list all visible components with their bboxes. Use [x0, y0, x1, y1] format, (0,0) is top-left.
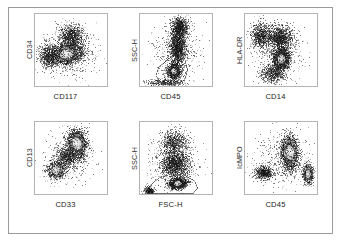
scatter-canvas — [245, 14, 317, 86]
scatter-plot-area — [139, 121, 213, 195]
plot-row: HLA-DR — [233, 13, 318, 87]
y-axis-label: SSC-H — [128, 13, 139, 87]
scatter-canvas — [140, 122, 212, 194]
plot-row: CD34 — [23, 13, 108, 87]
plot-row: CD13 — [23, 121, 108, 195]
scatter-canvas — [35, 14, 107, 86]
y-axis-label: HLA-DR — [233, 13, 244, 87]
scatter-canvas — [245, 122, 317, 194]
y-axis-label: CD13 — [23, 121, 34, 195]
x-axis-label: CD45 — [265, 200, 285, 209]
plot-row: SSC-H — [128, 13, 213, 87]
scatter-canvas — [35, 122, 107, 194]
scatter-canvas — [140, 14, 212, 86]
scatter-plot-area — [244, 121, 318, 195]
figure-frame: CD34CD117SSC-HCD45HLA-DRCD14CD13CD33SSC-… — [8, 7, 333, 234]
scatter-plot-area — [139, 13, 213, 87]
panel-grid: CD34CD117SSC-HCD45HLA-DRCD14CD13CD33SSC-… — [9, 8, 332, 233]
panel-ssch-cd45: SSC-HCD45 — [118, 13, 223, 121]
scatter-plot-area — [34, 13, 108, 87]
plot-row: SSC-H — [128, 121, 213, 195]
y-axis-label: SSC-H — [128, 121, 139, 195]
y-axis-label: IcMPO — [233, 121, 244, 195]
panel-hladr-cd14: HLA-DRCD14 — [223, 13, 328, 121]
panel-ssch-fsch: SSC-HFSC-H — [118, 121, 223, 229]
panel-icmpo-cd45: IcMPOCD45 — [223, 121, 328, 229]
x-axis-label: CD45 — [160, 92, 180, 101]
scatter-plot-area — [244, 13, 318, 87]
x-axis-label: CD117 — [53, 92, 77, 101]
plot-row: IcMPO — [233, 121, 318, 195]
scatter-plot-area — [34, 121, 108, 195]
panel-cd34-cd117: CD34CD117 — [13, 13, 118, 121]
x-axis-label: CD14 — [265, 92, 285, 101]
panel-cd13-cd33: CD13CD33 — [13, 121, 118, 229]
y-axis-label: CD34 — [23, 13, 34, 87]
x-axis-label: CD33 — [55, 200, 75, 209]
x-axis-label: FSC-H — [158, 200, 182, 209]
